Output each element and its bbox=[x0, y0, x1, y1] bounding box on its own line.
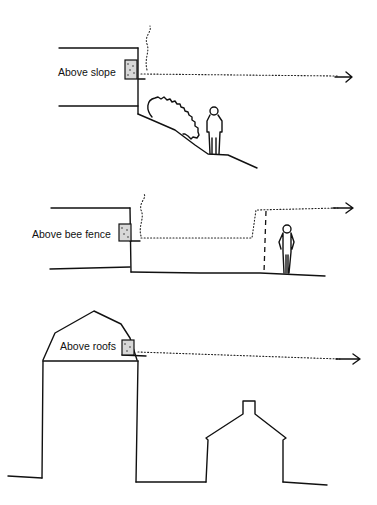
slope-ground bbox=[138, 114, 257, 168]
panel-above-bee-fence: Above bee fence bbox=[32, 194, 353, 276]
beehive-box bbox=[122, 340, 134, 355]
ground-left bbox=[8, 476, 42, 478]
bee-fence bbox=[264, 211, 266, 273]
ground-line bbox=[131, 272, 325, 276]
panel-label: Above bee fence bbox=[32, 228, 111, 240]
panel-above-roofs: Above roofs bbox=[8, 311, 360, 485]
person bbox=[279, 225, 294, 273]
bee-flight-path bbox=[141, 208, 338, 238]
ground-right bbox=[283, 482, 327, 485]
panel-above-slope: Above slope bbox=[58, 26, 352, 168]
tall-building-left-wall bbox=[42, 361, 43, 478]
arrow-head bbox=[335, 72, 352, 82]
beehive-box bbox=[125, 60, 137, 79]
bee-flight-up bbox=[140, 194, 144, 236]
panel-label: Above roofs bbox=[60, 340, 116, 352]
bee-flight-up bbox=[146, 26, 150, 70]
panel-label: Above slope bbox=[58, 66, 116, 78]
bee-flight-path bbox=[141, 74, 338, 76]
hedge bbox=[148, 97, 199, 139]
small-house bbox=[206, 401, 286, 482]
beehive-box bbox=[119, 224, 131, 241]
tall-building-right-wall bbox=[136, 361, 138, 482]
sketch-diagram: Above slope Above bee fence bbox=[0, 0, 377, 505]
bee-flight-path bbox=[138, 352, 340, 359]
building-bottom-edge bbox=[50, 267, 130, 269]
person bbox=[207, 107, 222, 154]
arrow-head bbox=[336, 354, 360, 364]
arrow-head bbox=[333, 203, 353, 213]
